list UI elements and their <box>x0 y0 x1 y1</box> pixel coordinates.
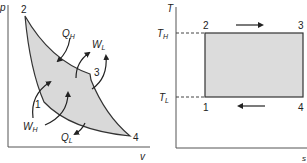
label-wh: WH <box>23 121 38 133</box>
pv-x-axis-label: v <box>140 151 146 162</box>
label-ql: QL <box>61 132 73 144</box>
label-tl: TL <box>159 92 169 104</box>
ts-point-3: 3 <box>298 20 304 31</box>
label-qh: QH <box>62 28 76 40</box>
ts-point-4: 4 <box>298 102 304 113</box>
ts-y-axis-label: T <box>167 3 174 14</box>
pv-cycle-region <box>25 16 130 136</box>
pv-point-3: 3 <box>94 67 100 78</box>
pv-point-4: 4 <box>133 132 139 143</box>
ts-point-2: 2 <box>203 20 209 31</box>
pv-point-1: 1 <box>35 99 41 110</box>
ts-x-axis-label: s <box>302 154 306 163</box>
ts-point-1: 1 <box>203 102 209 113</box>
label-wl: WL <box>92 39 105 51</box>
ts-cycle-region <box>205 33 303 97</box>
thermo-diagrams: p v 2 3 4 1 QH WL WH QL T s <box>0 0 307 163</box>
label-th: TH <box>157 28 169 40</box>
pv-y-axis-label: p <box>0 2 6 13</box>
pv-diagram: p v 2 3 4 1 QH WL WH QL <box>0 2 150 162</box>
ts-diagram: T s TH TL 2 3 1 4 <box>157 3 307 163</box>
pv-point-2: 2 <box>21 4 27 15</box>
